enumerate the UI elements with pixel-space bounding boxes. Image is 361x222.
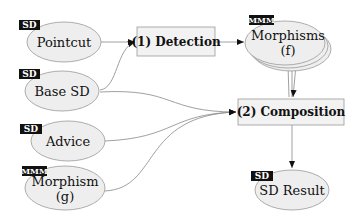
node-advice-label: Advice [45,134,90,149]
node-sd-result: SD Result SD [251,170,329,210]
tag-sd: SD [24,124,38,134]
node-base-sd: Base SD SD [19,69,99,111]
node-pointcut: Pointcut SD [19,20,101,62]
tag-sd: SD [255,171,269,181]
node-morphism-g-label-1: Morphism [31,174,98,189]
process-composition: (2) Composition [237,99,346,125]
tag-sd: SD [22,69,36,79]
edge-advice-composition [105,112,236,141]
tag-mmm: MMM [248,15,275,25]
edge-morphismg-composition [105,112,236,191]
node-pointcut-label: Pointcut [37,35,92,50]
process-composition-label: (2) Composition [237,105,346,119]
node-sd-result-label: SD Result [259,183,325,198]
node-morphisms-f-label-2: (f) [281,43,296,58]
tag-sd: SD [22,20,36,30]
node-morphism-g-label-2: (g) [56,189,74,204]
tag-mmm: MMM [21,166,48,176]
edge-basesd-composition [100,92,236,112]
node-base-sd-label: Base SD [34,84,89,99]
edge-basesd-detection [100,42,135,90]
process-detection: (1) Detection [131,27,221,56]
aspect-weaving-diagram: Pointcut SD Base SD SD Advice SD Morphis… [0,0,361,222]
node-morphism-g: Morphism (g) MMM [21,166,105,210]
process-detection-label: (1) Detection [131,35,221,49]
node-morphisms-f: Morphisms (f) MMM [245,15,331,71]
node-morphisms-f-label-1: Morphisms [251,28,325,43]
node-advice: Advice SD [20,121,105,161]
